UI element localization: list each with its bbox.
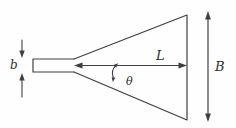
aperture-height-label: B <box>214 59 225 74</box>
aperture-height-arrowhead-down-icon <box>205 114 211 123</box>
horn-antenna-figure: L θ b B <box>0 0 236 128</box>
flare-length-label: L <box>155 48 165 63</box>
flare-angle-arrowhead-bottom-icon <box>112 77 116 82</box>
flare-length-arrowhead-right-icon <box>179 63 188 69</box>
waveguide-rectangle <box>33 59 74 72</box>
waveguide-height-arrows <box>19 40 24 97</box>
flare-angle-arc <box>112 66 115 78</box>
flare-length-arrowhead-left-icon <box>74 63 83 69</box>
aperture-height-arrow <box>205 11 211 122</box>
waveguide-height-label: b <box>10 58 18 72</box>
horn-antenna-diagram: L θ b B <box>0 0 236 128</box>
horn-flare-outline <box>74 15 187 120</box>
flare-angle-label: θ <box>126 75 133 88</box>
flare-length-arrow <box>74 63 187 69</box>
aperture-height-arrowhead-up-icon <box>205 11 211 20</box>
waveguide-height-arrowhead-down-icon <box>19 51 24 59</box>
waveguide-height-arrowhead-up-icon <box>19 73 24 81</box>
